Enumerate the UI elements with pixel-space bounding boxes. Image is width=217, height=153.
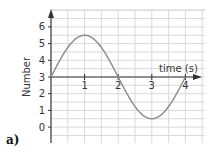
y-tick-label: 0: [39, 122, 45, 133]
y-tick-label: 2: [39, 88, 45, 99]
x-axis-label: time (s): [159, 63, 198, 74]
line-chart: 0123456 1234 time (s) Number a): [0, 0, 217, 153]
y-tick-labels: 0123456: [39, 21, 51, 132]
y-axis-label: Number: [21, 56, 32, 97]
y-tick-label: 1: [39, 105, 45, 116]
y-tick-label: 3: [39, 72, 45, 83]
x-tick-label: 1: [81, 80, 87, 91]
axes: [48, 9, 202, 143]
x-axis-arrow-icon: [193, 74, 202, 80]
panel-label: a): [6, 133, 19, 147]
y-tick-label: 6: [39, 21, 45, 32]
y-tick-label: 5: [39, 38, 45, 49]
y-tick-label: 4: [39, 55, 45, 66]
x-tick-label: 3: [149, 80, 155, 91]
